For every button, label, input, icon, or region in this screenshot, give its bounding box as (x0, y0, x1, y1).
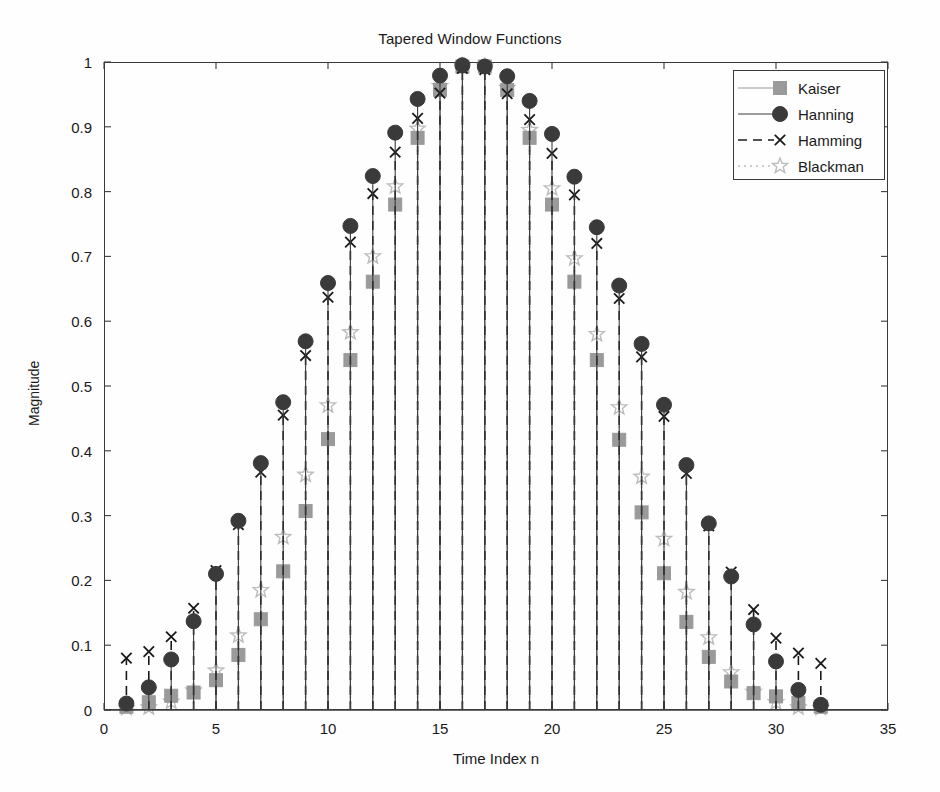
legend-label: Kaiser (798, 80, 841, 97)
x-tick-label: 10 (320, 720, 337, 737)
y-tick-label: 1 (40, 54, 92, 71)
y-axis-label: Magnitude (26, 361, 42, 426)
x-tick-label: 15 (432, 720, 449, 737)
y-tick-label: 0.7 (40, 248, 92, 265)
x-tick-label: 5 (212, 720, 220, 737)
legend-swatch-hanning (734, 101, 798, 127)
legend-item-hamming[interactable]: Hamming (734, 127, 884, 153)
legend-item-kaiser[interactable]: Kaiser (734, 75, 884, 101)
legend-swatch-kaiser (734, 75, 798, 101)
figure-canvas: Tapered Window Functions 00.10.20.30.40.… (0, 0, 940, 792)
legend-sample-icon (734, 101, 798, 127)
x-tick-label: 35 (880, 720, 897, 737)
y-tick-label: 0.6 (40, 313, 92, 330)
legend-marker-kaiser (774, 82, 787, 95)
y-tick-label: 0.2 (40, 572, 92, 589)
legend-sample-icon (734, 127, 798, 153)
x-tick-label: 20 (544, 720, 561, 737)
legend-sample-icon (734, 75, 798, 101)
legend-sample-icon (734, 153, 798, 179)
x-tick-label: 30 (768, 720, 785, 737)
y-tick-label: 0.1 (40, 637, 92, 654)
y-tick-label: 0.4 (40, 442, 92, 459)
y-tick-label: 0.3 (40, 507, 92, 524)
x-axis-label: Time Index n (453, 750, 539, 767)
x-tick-label: 25 (656, 720, 673, 737)
legend-marker-blackman (772, 158, 787, 172)
y-tick-label: 0.5 (40, 378, 92, 395)
legend-marker-hanning (773, 107, 788, 122)
y-tick-label: 0.8 (40, 183, 92, 200)
legend-swatch-hamming (734, 127, 798, 153)
legend-item-blackman[interactable]: Blackman (734, 153, 884, 179)
legend-item-hanning[interactable]: Hanning (734, 101, 884, 127)
x-tick-label: 0 (100, 720, 108, 737)
legend-label: Blackman (798, 158, 864, 175)
legend-swatch-blackman (734, 153, 798, 179)
legend: KaiserHanningHammingBlackman (733, 70, 885, 180)
y-tick-label: 0.9 (40, 118, 92, 135)
y-tick-label: 0 (40, 702, 92, 719)
legend-label: Hamming (798, 132, 862, 149)
legend-label: Hanning (798, 106, 854, 123)
